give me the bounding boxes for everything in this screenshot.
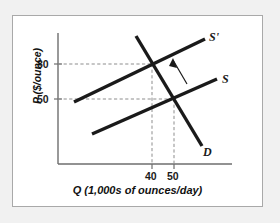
- curve-label-supply: S: [222, 72, 229, 87]
- x-tick-label-40: 40: [145, 170, 157, 182]
- x-axis-title: Q (1,000s of ounces/day): [13, 184, 262, 196]
- figure-frame: 80 50 40 50 S' S D P ($/ounce) Q (1,000s…: [12, 15, 263, 207]
- y-axis-title: P ($/ounce): [31, 24, 43, 128]
- supply-shift-arrowhead: [169, 58, 177, 68]
- curve-label-demand: D: [203, 145, 212, 160]
- curve-label-supply-shifted: S': [209, 30, 219, 45]
- curve-supply: [92, 79, 217, 134]
- x-tick-label-50: 50: [167, 170, 179, 182]
- figure-page: 80 50 40 50 S' S D P ($/ounce) Q (1,000s…: [0, 0, 280, 223]
- supply-demand-plot: [13, 16, 262, 206]
